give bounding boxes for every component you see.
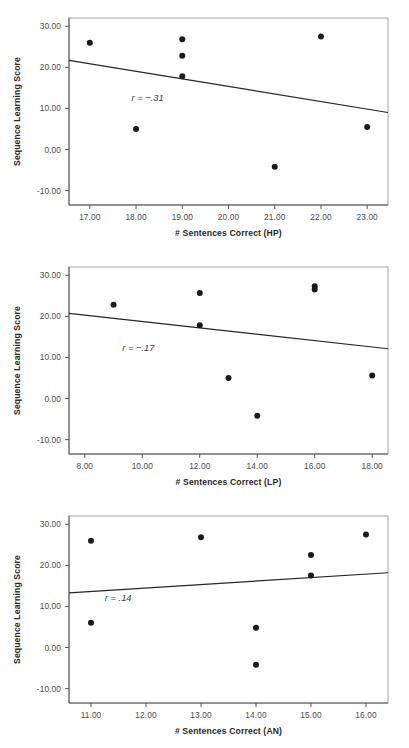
data-point <box>88 620 94 626</box>
correlation-annotation: r = −.31 <box>131 92 163 103</box>
axis-spines <box>69 18 388 205</box>
y-tick-label: 10.00 <box>40 103 62 113</box>
axis-spines <box>69 267 388 454</box>
regression-line <box>69 573 388 593</box>
data-point <box>318 33 324 39</box>
correlation-annotation: r = .14 <box>105 592 132 603</box>
y-tick-label: 0.00 <box>44 643 61 653</box>
data-point <box>179 73 185 79</box>
plot-chrome-lp: 30.0020.0010.000.00-10.008.0010.0012.001… <box>12 267 388 487</box>
y-tick-label: -10.00 <box>37 186 61 196</box>
scatter-panel-lp: 30.0020.0010.000.00-10.008.0010.0012.001… <box>0 249 409 498</box>
scatter-plot-an: 30.0020.0010.000.00-10.0011.0012.0013.00… <box>0 498 409 748</box>
y-tick-label: 20.00 <box>40 62 62 72</box>
x-tick-label: 16.00 <box>304 461 326 471</box>
correlation-annotation: r = −.17 <box>122 342 155 353</box>
x-tick-label: 14.00 <box>245 710 267 720</box>
x-tick-label: 16.00 <box>355 710 377 720</box>
data-point <box>254 413 260 419</box>
data-point <box>197 322 203 328</box>
x-tick-label: 8.00 <box>77 461 94 471</box>
data-point <box>369 373 375 379</box>
x-tick-label: 21.00 <box>264 212 286 222</box>
y-tick-label: 30.00 <box>40 21 62 31</box>
y-tick-label: 10.00 <box>40 601 62 611</box>
y-tick-label: 0.00 <box>44 145 61 155</box>
axis-spines <box>69 516 388 703</box>
y-tick-label: 30.00 <box>40 270 62 280</box>
x-tick-label: 17.00 <box>79 212 101 222</box>
scatter-plot-lp: 30.0020.0010.000.00-10.008.0010.0012.001… <box>0 249 409 498</box>
y-tick-label: -10.00 <box>37 684 61 694</box>
x-axis-title: # Sentences Correct (HP) <box>175 228 282 238</box>
x-axis-title: # Sentences Correct (AN) <box>175 726 282 736</box>
regression-line <box>69 60 388 112</box>
y-tick-label: 20.00 <box>40 311 62 321</box>
data-point <box>179 36 185 42</box>
y-tick-label: 0.00 <box>44 394 61 404</box>
data-point <box>111 302 117 308</box>
x-tick-label: 20.00 <box>218 212 240 222</box>
y-axis-title: Sequence Learning Score <box>12 306 22 415</box>
data-point <box>312 287 318 293</box>
data-point <box>87 40 93 46</box>
x-tick-label: 18.00 <box>362 461 384 471</box>
data-point <box>308 573 314 579</box>
scatter-plot-hp: 30.0020.0010.000.00-10.0017.0018.0019.00… <box>0 0 409 249</box>
data-point <box>226 375 232 381</box>
y-axis-title: Sequence Learning Score <box>12 555 22 664</box>
data-point <box>308 552 314 558</box>
y-axis-title: Sequence Learning Score <box>12 57 22 166</box>
plot-chrome-an: 30.0020.0010.000.00-10.0011.0012.0013.00… <box>12 516 388 736</box>
x-tick-label: 13.00 <box>190 710 212 720</box>
y-tick-label: 20.00 <box>40 560 62 570</box>
y-tick-label: -10.00 <box>37 435 61 445</box>
x-tick-label: 12.00 <box>135 710 157 720</box>
data-point <box>198 534 204 540</box>
y-tick-label: 30.00 <box>40 519 62 529</box>
plot-frame <box>69 516 388 703</box>
regression-line <box>69 313 388 348</box>
data-point <box>197 290 203 296</box>
plot-frame <box>69 267 388 454</box>
x-axis-title: # Sentences Correct (LP) <box>176 477 282 487</box>
y-tick-label: 10.00 <box>40 352 62 362</box>
data-point <box>253 625 259 631</box>
data-point <box>88 538 94 544</box>
plot-frame <box>69 18 388 205</box>
data-point <box>364 124 370 130</box>
data-point <box>133 126 139 132</box>
x-tick-label: 18.00 <box>125 212 147 222</box>
data-point <box>363 531 369 537</box>
x-tick-label: 11.00 <box>81 710 102 720</box>
scatter-panel-an: 30.0020.0010.000.00-10.0011.0012.0013.00… <box>0 498 409 747</box>
data-point <box>253 662 259 668</box>
x-tick-label: 23.00 <box>357 212 379 222</box>
x-tick-label: 14.00 <box>247 461 269 471</box>
data-point <box>179 53 185 59</box>
x-tick-label: 12.00 <box>189 461 211 471</box>
scatter-panel-hp: 30.0020.0010.000.00-10.0017.0018.0019.00… <box>0 0 409 249</box>
plot-chrome-hp: 30.0020.0010.000.00-10.0017.0018.0019.00… <box>12 18 388 238</box>
x-tick-label: 10.00 <box>132 461 154 471</box>
data-point <box>272 164 278 170</box>
x-tick-label: 15.00 <box>300 710 322 720</box>
figure-page: 30.0020.0010.000.00-10.0017.0018.0019.00… <box>0 0 409 748</box>
x-tick-label: 22.00 <box>310 212 332 222</box>
x-tick-label: 19.00 <box>172 212 194 222</box>
